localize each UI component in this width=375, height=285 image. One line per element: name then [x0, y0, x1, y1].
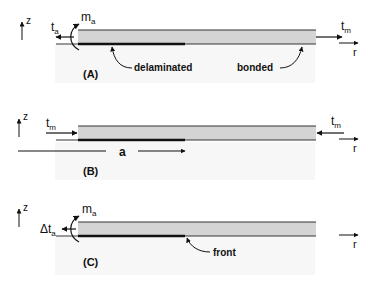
dimension-label: a	[119, 145, 126, 159]
z-axis-label: z	[23, 111, 28, 122]
left-force-label: tm	[46, 116, 56, 132]
delaminated-label: delaminated	[134, 62, 192, 73]
delamination-diagram: z ta ma tm r delaminated bonded (A) z	[0, 0, 375, 285]
panel-a-label: (A)	[83, 68, 99, 80]
panel-b-label: (B)	[83, 165, 99, 177]
z-axis-label: z	[23, 202, 28, 213]
panel-c-label: (C)	[83, 256, 99, 268]
r-axis-label: r	[353, 46, 357, 58]
r-axis-label: r	[353, 142, 357, 154]
panel-b: z tm tm r a (B)	[18, 111, 358, 180]
left-force-label: Δta	[40, 222, 56, 238]
bonded-label: bonded	[237, 62, 273, 73]
moment-label: ma	[82, 202, 97, 218]
laminate-layer	[78, 222, 316, 236]
r-axis-label: r	[353, 238, 357, 250]
moment-label: ma	[81, 10, 96, 26]
right-force-label: tm	[341, 19, 351, 35]
front-label: front	[213, 247, 236, 258]
left-force-label: ta	[51, 20, 59, 36]
laminate-layer	[78, 30, 316, 44]
right-force-label: tm	[331, 114, 341, 130]
z-axis-label: z	[26, 15, 31, 26]
panel-c: z Δta ma r front (C)	[19, 202, 358, 275]
laminate-layer	[78, 126, 316, 140]
panel-a: z ta ma tm r delaminated bonded (A)	[22, 10, 358, 83]
